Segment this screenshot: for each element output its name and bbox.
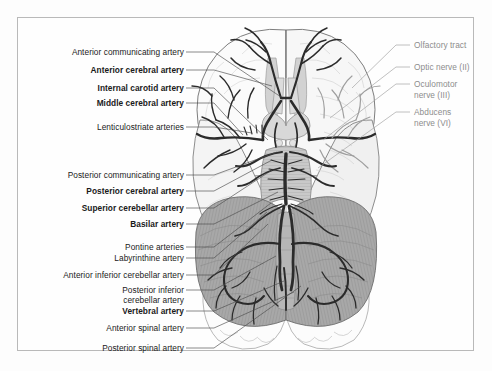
- label-vertebral-artery: Vertebral artery: [122, 306, 184, 317]
- label-abducens-nerve-line2: nerve (VI): [414, 118, 451, 129]
- label-internal-carotid-artery: Internal carotid artery: [98, 83, 184, 94]
- label-posterior-spinal-artery: Posterior spinal artery: [102, 343, 184, 354]
- label-posterior-inferior-cerebellar-artery-line2: cerebellar artery: [123, 295, 184, 306]
- label-optic-nerve: Optic nerve (II): [414, 62, 470, 73]
- label-basilar-artery: Basilar artery: [130, 219, 184, 230]
- label-anterior-inferior-cerebellar-artery: Anterior inferior cerebellar artery: [63, 270, 184, 281]
- anatomical-figure: Anterior communicating artery Anterior c…: [0, 0, 492, 371]
- label-olfactory-tract: Olfactory tract: [414, 40, 466, 51]
- label-abducens-nerve-line1: Abducens: [414, 107, 451, 118]
- label-lenticulostriate-arteries: Lenticulostriate arteries: [97, 122, 184, 133]
- label-labyrinthine-artery: Labyrinthine artery: [114, 253, 184, 264]
- label-superior-cerebellar-artery: Superior cerebellar artery: [82, 203, 184, 214]
- label-anterior-communicating-artery: Anterior communicating artery: [72, 47, 184, 58]
- label-posterior-communicating-artery: Posterior communicating artery: [68, 170, 184, 181]
- label-anterior-cerebral-artery: Anterior cerebral artery: [91, 65, 184, 76]
- label-oculomotor-nerve-line1: Oculomotor: [414, 79, 457, 90]
- label-middle-cerebral-artery: Middle cerebral artery: [97, 98, 184, 109]
- label-anterior-spinal-artery: Anterior spinal artery: [106, 323, 184, 334]
- label-oculomotor-nerve-line2: nerve (III): [414, 90, 450, 101]
- label-posterior-cerebral-artery: Posterior cerebral artery: [86, 186, 184, 197]
- label-posterior-inferior-cerebellar-artery-line1: Posterior inferior: [122, 285, 184, 296]
- label-pontine-arteries: Pontine arteries: [125, 242, 184, 253]
